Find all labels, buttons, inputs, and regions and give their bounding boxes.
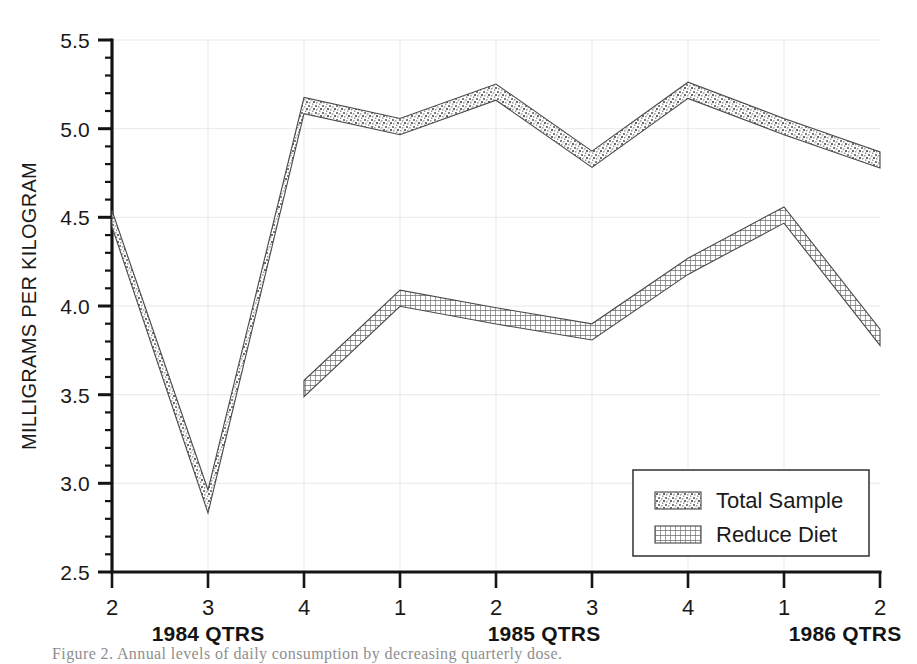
x-tick-label: 3: [586, 595, 598, 620]
x-tick-label: 4: [682, 595, 694, 620]
x-tick-label: 1: [394, 595, 406, 620]
legend: Total Sample Reduce Diet: [633, 470, 869, 556]
x-tick-label: 2: [490, 595, 502, 620]
y-tick-label: 4.5: [60, 206, 90, 229]
y-tick-labels: 5.5 5.0 4.5 4.0 3.5 3.0 2.5: [60, 29, 90, 584]
x-group-label-1986: 1986 QTRS: [789, 622, 902, 645]
x-tick-labels: 2 3 4 1 2 3 4 1 2: [106, 595, 886, 620]
y-tick-label: 5.0: [60, 118, 90, 141]
figure-caption: Figure 2. Annual levels of daily consump…: [52, 645, 882, 664]
y-major-ticks: [98, 40, 112, 572]
x-group-label-1985: 1985 QTRS: [488, 622, 601, 645]
x-group-label-1984: 1984 QTRS: [152, 622, 265, 645]
legend-label-reduce-diet: Reduce Diet: [716, 522, 837, 547]
x-tick-label: 1: [778, 595, 790, 620]
x-ticks: [112, 572, 880, 588]
y-tick-label: 5.5: [60, 29, 90, 52]
line-chart: 5.5 5.0 4.5 4.0 3.5 3.0 2.5 2 3 4 1 2 3 …: [0, 0, 917, 664]
y-tick-label: 3.5: [60, 384, 90, 407]
y-tick-label: 3.0: [60, 472, 90, 495]
x-tick-label: 3: [202, 595, 214, 620]
figure-container: 5.5 5.0 4.5 4.0 3.5 3.0 2.5 2 3 4 1 2 3 …: [0, 0, 917, 664]
y-axis-title: MILLIGRAMS PER KILOGRAM: [18, 162, 40, 450]
x-tick-label: 2: [106, 595, 118, 620]
legend-swatch-reduce-diet: [655, 526, 701, 543]
y-tick-label: 4.0: [60, 295, 90, 318]
x-group-labels: 1984 QTRS 1985 QTRS 1986 QTRS: [152, 622, 902, 645]
x-tick-label: 2: [874, 595, 886, 620]
y-tick-label: 2.5: [60, 561, 90, 584]
legend-swatch-total-sample: [655, 492, 701, 509]
x-tick-label: 4: [298, 595, 310, 620]
legend-label-total-sample: Total Sample: [716, 488, 843, 513]
